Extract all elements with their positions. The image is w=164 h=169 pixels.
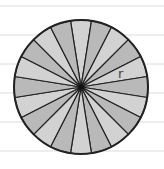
center-point <box>79 85 84 90</box>
sector-circle-diagram: r <box>0 0 164 169</box>
radius-label: r <box>118 66 124 81</box>
